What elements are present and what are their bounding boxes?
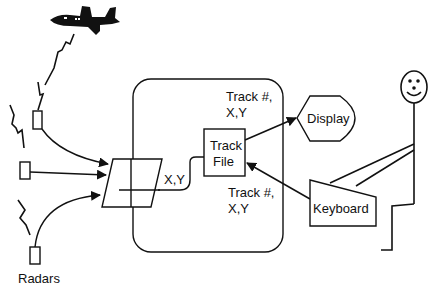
radar-tracking-diagram: X,Y Track File Track #, X,Y Track #, X,Y… xyxy=(0,0,436,290)
track-bottom-label-1: Track #, xyxy=(228,185,274,200)
track-file-label-2: File xyxy=(213,154,234,169)
radar-3-link xyxy=(35,195,100,247)
keyboard-label: Keyboard xyxy=(313,201,369,216)
radar-1 xyxy=(33,111,42,129)
trackfile-display-link xyxy=(245,118,296,140)
radar-1-link xyxy=(42,129,108,164)
track-bottom-label-2: X,Y xyxy=(228,201,249,216)
xy-input-label: X,Y xyxy=(164,172,185,187)
track-file-label-1: Track xyxy=(210,138,243,153)
display-label: Display xyxy=(307,111,350,126)
radar-2 xyxy=(20,162,30,179)
track-top-label-1: Track #, xyxy=(226,89,272,104)
radar-3 xyxy=(30,247,40,264)
track-top-label-2: X,Y xyxy=(226,105,247,120)
input-buffer xyxy=(102,159,162,207)
radars-label: Radars xyxy=(18,271,60,286)
airplane-icon xyxy=(50,6,120,35)
radar-2-link xyxy=(30,172,106,175)
radar-signal-icon xyxy=(10,34,74,235)
